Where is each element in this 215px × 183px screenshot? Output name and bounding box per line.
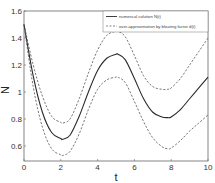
line-chart: 0246810 0.60.811.21.41.6 t N numerical s… <box>0 0 215 183</box>
x-tick-label: 10 <box>204 163 213 172</box>
y-tick-label: 1 <box>18 88 23 97</box>
x-tick-label: 2 <box>59 163 64 172</box>
legend-item-overapprox: over-approximation by bloating factor d(… <box>119 24 196 29</box>
plot-area <box>24 11 208 161</box>
y-axis-label: N <box>0 86 11 94</box>
x-tick-label: 8 <box>169 163 174 172</box>
y-tick-label: 1.2 <box>11 61 23 70</box>
x-tick-label: 0 <box>22 163 27 172</box>
y-tick-label: 0.6 <box>11 142 23 151</box>
legend-item-numerical: numerical solution N(t) <box>119 14 161 19</box>
y-tick-label: 1.6 <box>11 7 23 16</box>
legend: numerical solution N(t) over-approximati… <box>103 11 208 32</box>
x-axis-label: t <box>114 171 117 183</box>
x-tick-label: 6 <box>132 163 137 172</box>
y-tick-label: 1.4 <box>11 34 23 43</box>
x-tick-label: 4 <box>95 163 100 172</box>
y-tick-label: 0.8 <box>11 115 23 124</box>
